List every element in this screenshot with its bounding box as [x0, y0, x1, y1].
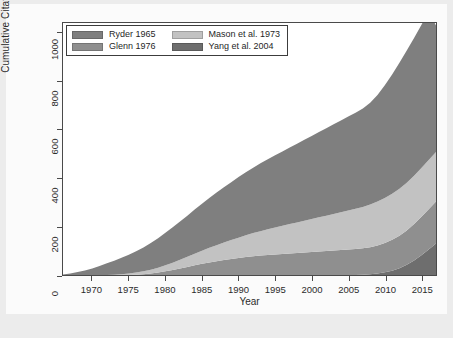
x-tick-label: 2005	[329, 284, 369, 295]
x-tick-label: 1970	[71, 284, 111, 295]
y-tick-label: 400	[49, 179, 60, 213]
plot-area	[62, 22, 437, 276]
legend-label-ryder-1965: Ryder 1965	[109, 30, 156, 39]
x-tick-mark	[312, 276, 313, 281]
x-tick-mark	[128, 276, 129, 281]
x-tick-label: 1980	[145, 284, 185, 295]
legend-item-yang-et-al-2004: Yang et al. 2004	[172, 42, 281, 51]
legend-swatch-yang-et-al-2004	[172, 43, 203, 51]
x-tick-label: 1985	[182, 284, 222, 295]
legend-item-mason-et-al-1973: Mason et al. 1973	[172, 30, 281, 39]
legend-label-mason-et-al-1973: Mason et al. 1973	[209, 30, 281, 39]
x-tick-mark	[275, 276, 276, 281]
legend-swatch-glenn-1976	[72, 43, 103, 51]
figure-canvas: Cumulative Citations 02004006008001000 1…	[6, 4, 447, 314]
y-tick-label: 600	[49, 130, 60, 164]
y-axis-title: Cumulative Citations	[0, 0, 11, 96]
legend-item-glenn-1976: Glenn 1976	[72, 42, 156, 51]
stacked-area-series	[63, 23, 436, 275]
legend-swatch-mason-et-al-1973	[172, 31, 203, 39]
y-tick-label: 800	[49, 81, 60, 115]
x-tick-mark	[202, 276, 203, 281]
y-tick-label: 1000	[49, 32, 60, 66]
x-axis-title: Year	[62, 296, 437, 307]
figure-container: Cumulative Citations 02004006008001000 1…	[0, 0, 453, 338]
x-tick-label: 2015	[402, 284, 442, 295]
x-tick-label: 1990	[218, 284, 258, 295]
x-tick-label: 2010	[366, 284, 406, 295]
x-tick-label: 2000	[292, 284, 332, 295]
chart-legend: Ryder 1965 Mason et al. 1973 Glenn 1976 …	[66, 25, 288, 56]
y-tick-label: 0	[49, 277, 60, 311]
x-tick-mark	[386, 276, 387, 281]
x-tick-label: 1975	[108, 284, 148, 295]
legend-label-glenn-1976: Glenn 1976	[109, 42, 156, 51]
legend-swatch-ryder-1965	[72, 31, 103, 39]
x-tick-mark	[349, 276, 350, 281]
legend-label-yang-et-al-2004: Yang et al. 2004	[209, 42, 274, 51]
legend-item-ryder-1965: Ryder 1965	[72, 30, 156, 39]
y-tick-label: 200	[49, 228, 60, 262]
x-tick-mark	[422, 276, 423, 281]
x-tick-label: 1995	[255, 284, 295, 295]
x-tick-mark	[238, 276, 239, 281]
x-tick-mark	[91, 276, 92, 281]
x-tick-mark	[165, 276, 166, 281]
